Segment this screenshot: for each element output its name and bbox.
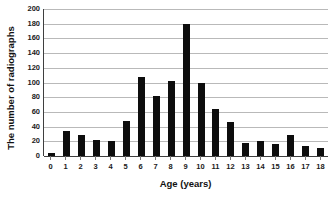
x-axis-tick-mark bbox=[110, 156, 111, 160]
bar-slot bbox=[298, 9, 313, 156]
x-axis-tick-label: 7 bbox=[148, 161, 163, 173]
x-axis-tick-mark bbox=[65, 156, 66, 160]
x-tick-slot bbox=[163, 156, 178, 160]
x-axis-tick-mark bbox=[170, 156, 171, 160]
x-tick-slot bbox=[238, 156, 253, 160]
x-tick-slot bbox=[43, 156, 58, 160]
bar-slot bbox=[164, 9, 179, 156]
x-axis-tick-label: 18 bbox=[313, 161, 328, 173]
x-axis-tick-mark bbox=[260, 156, 261, 160]
bar bbox=[242, 143, 249, 156]
x-axis-tick-label: 0 bbox=[43, 161, 58, 173]
y-axis-tick-label: 140 bbox=[18, 49, 40, 57]
y-axis-title: The number of radiographs bbox=[2, 8, 18, 168]
x-axis-title: Age (years) bbox=[43, 178, 328, 189]
y-axis-tick-label: 160 bbox=[18, 34, 40, 42]
bar-slot bbox=[208, 9, 223, 156]
x-tick-slot bbox=[58, 156, 73, 160]
x-axis-tick-label: 2 bbox=[73, 161, 88, 173]
bar bbox=[138, 77, 145, 156]
y-axis-tick-label: 200 bbox=[18, 5, 40, 13]
x-axis-tick-mark bbox=[215, 156, 216, 160]
x-tick-slot bbox=[118, 156, 133, 160]
bar-slot bbox=[89, 9, 104, 156]
y-axis-tick-label: 80 bbox=[18, 93, 40, 101]
x-tick-slot bbox=[298, 156, 313, 160]
bar bbox=[93, 140, 100, 156]
x-tick-slot bbox=[313, 156, 328, 160]
y-axis-tick-label: 60 bbox=[18, 108, 40, 116]
bar bbox=[272, 144, 279, 156]
x-axis-tick-mark bbox=[80, 156, 81, 160]
bar-series bbox=[44, 9, 328, 156]
x-tick-slot bbox=[88, 156, 103, 160]
bar-slot bbox=[149, 9, 164, 156]
x-axis-tick-label: 16 bbox=[283, 161, 298, 173]
x-tick-slot bbox=[178, 156, 193, 160]
x-axis-tick-label: 12 bbox=[223, 161, 238, 173]
x-axis-tick-marks bbox=[43, 156, 328, 160]
bar-slot bbox=[223, 9, 238, 156]
x-axis-tick-label: 17 bbox=[298, 161, 313, 173]
bar-slot bbox=[253, 9, 268, 156]
x-axis-tick-mark bbox=[245, 156, 246, 160]
x-axis-tick-label: 1 bbox=[58, 161, 73, 173]
bar bbox=[63, 131, 70, 156]
y-axis-tick-labels: 020406080100120140160180200 bbox=[18, 9, 40, 156]
bar bbox=[302, 146, 309, 156]
bar bbox=[78, 135, 85, 156]
bar-chart: The number of radiographs 02040608010012… bbox=[0, 0, 333, 201]
x-axis-tick-label: 3 bbox=[88, 161, 103, 173]
x-axis-tick-label: 15 bbox=[268, 161, 283, 173]
y-axis-tick-label: 180 bbox=[18, 20, 40, 28]
bar-slot bbox=[134, 9, 149, 156]
bar-slot bbox=[268, 9, 283, 156]
x-axis-tick-label: 9 bbox=[178, 161, 193, 173]
bar-slot bbox=[238, 9, 253, 156]
x-axis-tick-label: 10 bbox=[193, 161, 208, 173]
bar-slot bbox=[44, 9, 59, 156]
y-axis-tick-label: 20 bbox=[18, 137, 40, 145]
y-axis-tick-label: 40 bbox=[18, 123, 40, 131]
bar-slot bbox=[74, 9, 89, 156]
x-tick-slot bbox=[148, 156, 163, 160]
bar-slot bbox=[313, 9, 328, 156]
x-axis-tick-label: 4 bbox=[103, 161, 118, 173]
x-tick-slot bbox=[223, 156, 238, 160]
x-tick-slot bbox=[268, 156, 283, 160]
bar bbox=[168, 81, 175, 156]
x-axis-tick-mark bbox=[140, 156, 141, 160]
bar bbox=[257, 141, 264, 156]
x-tick-slot bbox=[133, 156, 148, 160]
x-axis-tick-mark bbox=[275, 156, 276, 160]
x-axis-tick-label: 11 bbox=[208, 161, 223, 173]
x-tick-slot bbox=[208, 156, 223, 160]
x-axis-tick-mark bbox=[305, 156, 306, 160]
x-tick-slot bbox=[103, 156, 118, 160]
x-axis-tick-label: 8 bbox=[163, 161, 178, 173]
bar bbox=[227, 122, 234, 156]
x-axis-tick-mark bbox=[290, 156, 291, 160]
x-axis-tick-mark bbox=[95, 156, 96, 160]
x-tick-slot bbox=[283, 156, 298, 160]
x-axis-tick-label: 13 bbox=[238, 161, 253, 173]
bar-slot bbox=[119, 9, 134, 156]
y-axis-tick-label: 100 bbox=[18, 79, 40, 87]
bar-slot bbox=[283, 9, 298, 156]
x-axis-tick-mark bbox=[125, 156, 126, 160]
x-axis-tick-mark bbox=[200, 156, 201, 160]
x-axis-tick-label: 6 bbox=[133, 161, 148, 173]
x-axis-tick-mark bbox=[320, 156, 321, 160]
plot-area bbox=[43, 9, 328, 156]
bar-slot bbox=[104, 9, 119, 156]
x-axis-tick-label: 14 bbox=[253, 161, 268, 173]
x-axis-tick-mark bbox=[155, 156, 156, 160]
bar bbox=[212, 109, 219, 156]
bar bbox=[108, 141, 115, 156]
x-axis-tick-mark bbox=[230, 156, 231, 160]
y-axis-tick-label: 120 bbox=[18, 64, 40, 72]
bar-slot bbox=[179, 9, 194, 156]
x-axis-tick-label: 5 bbox=[118, 161, 133, 173]
bar bbox=[198, 83, 205, 157]
bar bbox=[183, 24, 190, 156]
